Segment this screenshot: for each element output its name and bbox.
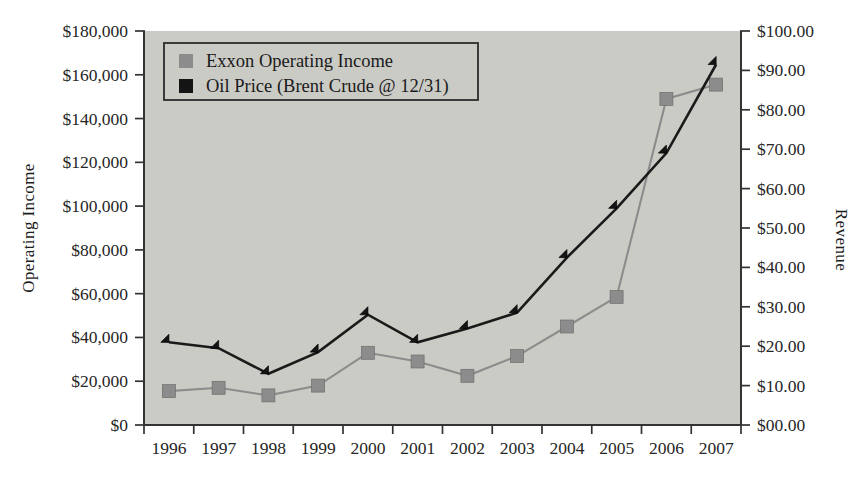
left-tick-label: $100,000 bbox=[62, 196, 128, 216]
x-tick-label-2000: 2000 bbox=[350, 438, 385, 458]
right-tick-label: $80.00 bbox=[757, 100, 805, 120]
data-point-2007 bbox=[710, 78, 723, 91]
right-tick-label: $30.00 bbox=[757, 297, 805, 317]
data-point-2003 bbox=[511, 350, 524, 363]
legend-label-oil-price: Oil Price (Brent Crude @ 12/31) bbox=[206, 76, 449, 97]
right-tick-label: $20.00 bbox=[757, 336, 805, 356]
x-tick-label-1996: 1996 bbox=[151, 438, 186, 458]
left-tick-label: $120,000 bbox=[62, 152, 128, 172]
data-point-2004 bbox=[560, 320, 573, 333]
x-tick-label-2007: 2007 bbox=[699, 438, 734, 458]
right-tick-label: $50.00 bbox=[757, 218, 805, 238]
left-tick-label: $60,000 bbox=[71, 284, 128, 304]
left-tick-label: $160,000 bbox=[62, 65, 128, 85]
x-tick-label-1999: 1999 bbox=[301, 438, 336, 458]
x-tick-label-2004: 2004 bbox=[549, 438, 584, 458]
left-axis-title: Operating Income bbox=[19, 163, 38, 293]
x-tick-label-2003: 2003 bbox=[500, 438, 535, 458]
data-point-2005 bbox=[610, 290, 623, 303]
right-tick-label: $100.00 bbox=[757, 21, 814, 41]
left-tick-label: $0 bbox=[111, 415, 129, 435]
right-tick-label: $90.00 bbox=[757, 60, 805, 80]
data-point-1997 bbox=[212, 381, 225, 394]
data-point-2001 bbox=[411, 355, 424, 368]
legend-swatch-exxon-operating-income bbox=[179, 54, 193, 68]
left-tick-label: $20,000 bbox=[71, 371, 128, 391]
data-point-1996 bbox=[162, 385, 175, 398]
x-tick-label-1998: 1998 bbox=[251, 438, 286, 458]
chart-figure: $0$20,000$40,000$60,000$80,000$100,000$1… bbox=[0, 0, 860, 483]
data-point-2006 bbox=[660, 92, 673, 105]
x-tick-label-2001: 2001 bbox=[400, 438, 435, 458]
right-tick-label: $00.00 bbox=[757, 415, 805, 435]
legend-label-exxon-operating-income: Exxon Operating Income bbox=[206, 51, 393, 71]
chart-legend: Exxon Operating Income Oil Price (Brent … bbox=[164, 43, 478, 100]
left-tick-label: $80,000 bbox=[71, 240, 128, 260]
left-tick-label: $140,000 bbox=[62, 109, 128, 129]
right-axis-title: Revenue bbox=[832, 209, 851, 271]
right-tick-label: $60.00 bbox=[757, 179, 805, 199]
exxon-operating-income-vs-oil-price-chart: $0$20,000$40,000$60,000$80,000$100,000$1… bbox=[0, 0, 860, 483]
data-point-2002 bbox=[461, 369, 474, 382]
data-point-2000 bbox=[361, 346, 374, 359]
x-tick-label-2005: 2005 bbox=[599, 438, 634, 458]
left-tick-label: $180,000 bbox=[62, 21, 128, 41]
x-tick-label-2002: 2002 bbox=[450, 438, 485, 458]
right-tick-label: $70.00 bbox=[757, 139, 805, 159]
right-tick-label: $10.00 bbox=[757, 376, 805, 396]
x-tick-label-2006: 2006 bbox=[649, 438, 684, 458]
data-point-1998 bbox=[262, 389, 275, 402]
right-tick-label: $40.00 bbox=[757, 257, 805, 277]
data-point-1999 bbox=[312, 379, 325, 392]
left-tick-label: $40,000 bbox=[71, 327, 128, 347]
x-tick-label-1997: 1997 bbox=[201, 438, 236, 458]
legend-swatch-oil-price bbox=[179, 79, 193, 93]
